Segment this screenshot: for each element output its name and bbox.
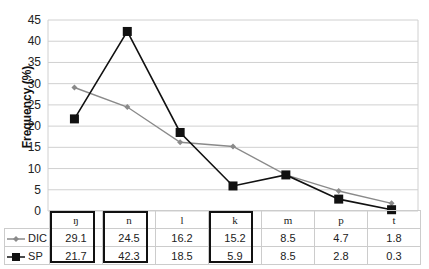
table-cell: 4.7 (315, 229, 368, 247)
category-cell: l (156, 211, 209, 229)
table-cell: 2.8 (315, 247, 368, 265)
category-cell: t (368, 211, 421, 229)
category-cell: k (209, 211, 262, 229)
table-cell: 18.5 (156, 247, 209, 265)
legend-sp: SP (5, 247, 50, 265)
category-cell: m (262, 211, 315, 229)
table-cell: 5.9 (209, 247, 262, 265)
category-cell: n (103, 211, 156, 229)
y-tick-label: 10 (28, 163, 41, 175)
square-marker-icon (7, 253, 25, 261)
table-cell: 16.2 (156, 229, 209, 247)
table-row-dic: DIC 29.1 24.5 16.2 15.2 8.5 4.7 1.8 (5, 229, 421, 247)
table-cell: 1.8 (368, 229, 421, 247)
category-row: ŋ n l k m p t (5, 211, 421, 229)
table-row-sp: SP 21.7 42.3 18.5 5.9 8.5 2.8 0.3 (5, 247, 421, 265)
data-table: ŋ n l k m p t DIC 29.1 24.5 16.2 15.2 8.… (4, 210, 421, 265)
legend-dic: DIC (5, 229, 50, 247)
table-cell: 24.5 (103, 229, 156, 247)
table-cell: 29.1 (50, 229, 103, 247)
table-cell: 21.7 (50, 247, 103, 265)
frequency-line-chart: 051015202530354045 Frequency (%) ŋ n l k… (0, 0, 429, 269)
category-cell: ŋ (50, 211, 103, 229)
table-cell: 8.5 (262, 229, 315, 247)
y-tick-label: 5 (34, 184, 41, 196)
y-tick-label: 40 (28, 35, 41, 47)
table-cell: 42.3 (103, 247, 156, 265)
y-tick-label: 45 (28, 14, 41, 26)
diamond-marker-icon (7, 235, 25, 243)
table-cell: 15.2 (209, 229, 262, 247)
table-cell: 0.3 (368, 247, 421, 265)
y-axis-label: Frequency (%) (20, 62, 34, 152)
category-cell: p (315, 211, 368, 229)
table-cell: 8.5 (262, 247, 315, 265)
